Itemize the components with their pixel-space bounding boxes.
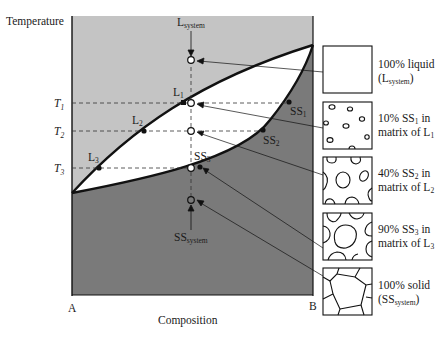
t2-label: T2 bbox=[54, 125, 64, 140]
microstructure-box-solid bbox=[323, 268, 372, 315]
phase-diagram-figure: Temperature Composition A B T1 T2 T3 Lsy… bbox=[0, 0, 447, 339]
composition-b-label: B bbox=[309, 300, 317, 312]
caption-1-line1: 100% liquid bbox=[378, 58, 435, 71]
microstructure-box-40pct bbox=[323, 157, 372, 204]
microstructure-panel bbox=[323, 46, 372, 315]
caption-2-line1: 10% SS1 in bbox=[378, 112, 431, 126]
liquid-system-point bbox=[188, 57, 195, 64]
t1-label: T1 bbox=[54, 97, 64, 112]
t3-composition-point bbox=[188, 165, 195, 172]
caption-5-line2: (SSsystem) bbox=[378, 293, 419, 307]
ss3-point bbox=[197, 164, 202, 169]
l2-point bbox=[141, 128, 146, 133]
microstructure-box-10pct bbox=[323, 102, 372, 149]
t1-composition-point bbox=[188, 100, 195, 107]
caption-4-line1: 90% SS3 in bbox=[378, 223, 431, 237]
caption-3-line1: 40% SS2 in bbox=[378, 167, 431, 181]
l3-point bbox=[96, 165, 101, 170]
caption-3-line2: matrix of L2 bbox=[378, 181, 434, 195]
t2-composition-point bbox=[188, 128, 195, 135]
l1-point bbox=[181, 100, 186, 105]
t3-label: T3 bbox=[54, 162, 64, 177]
caption-2-line2: matrix of L1 bbox=[378, 126, 434, 140]
caption-4-line2: matrix of L3 bbox=[378, 237, 434, 251]
caption-1-line2: (Lsystem) bbox=[378, 72, 414, 86]
composition-a-label: A bbox=[68, 302, 77, 314]
x-axis-label: Composition bbox=[158, 314, 218, 327]
caption-5-line1: 100% solid bbox=[378, 279, 430, 291]
y-axis-label: Temperature bbox=[6, 15, 64, 28]
ss2-point bbox=[260, 127, 265, 132]
microstructure-box-liquid bbox=[323, 46, 372, 93]
ss1-point bbox=[286, 99, 291, 104]
microstructure-captions: 100% liquid (Lsystem) 10% SS1 in matrix … bbox=[378, 58, 435, 307]
microstructure-box-90pct bbox=[323, 213, 372, 260]
